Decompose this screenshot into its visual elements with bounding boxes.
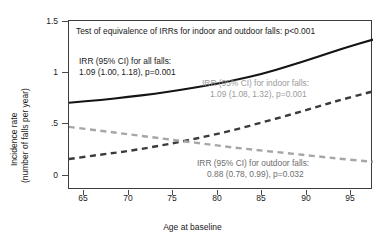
annotation-equivalence-test: Test of equivalence of IRRs for indoor a… xyxy=(76,26,315,37)
y-tick-label-1: 1 xyxy=(32,67,58,77)
x-tick-label-85: 85 xyxy=(246,193,276,203)
annotation-all-falls-line1: IRR (95% CI) for all falls: xyxy=(79,56,171,66)
series-outdoor-falls xyxy=(69,127,373,162)
annotation-indoor-falls-line2: 1.09 (1.08, 1.32), p=0.001 xyxy=(202,89,309,100)
y-axis-label-line1: Incidence rate xyxy=(9,113,20,166)
y-tick-label-1.5: 1.5 xyxy=(32,16,58,26)
annotation-outdoor-falls-line1: IRR (95% CI) for outdoor falls: xyxy=(197,158,309,168)
annotation-outdoor-falls-line2: 0.88 (0.78, 0.99), p=0.032 xyxy=(197,169,309,180)
y-axis-ticks: 1.5 1 .5 0 xyxy=(32,0,58,244)
x-tick-label-90: 90 xyxy=(291,193,321,203)
y-tick-label-0.5: .5 xyxy=(32,118,58,128)
y-tick-label-0: 0 xyxy=(32,170,58,180)
annotation-all-falls: IRR (95% CI) for all falls: 1.09 (1.00, … xyxy=(79,56,176,78)
series-indoor-falls xyxy=(69,91,373,159)
annotation-all-falls-line2: 1.09 (1.00, 1.18), p=0.001 xyxy=(79,67,176,78)
annotation-outdoor-falls: IRR (95% CI) for outdoor falls: 0.88 (0.… xyxy=(197,158,309,180)
x-tick-label-65: 65 xyxy=(68,193,98,203)
annotation-indoor-falls-line1: IRR (95% CI) for indoor falls: xyxy=(202,78,309,88)
incidence-rate-chart: Incidence rate (number of falls per year… xyxy=(0,0,385,244)
annotation-equivalence-test-line1: Test of equivalence of IRRs for indoor a… xyxy=(76,26,315,36)
annotation-indoor-falls: IRR (95% CI) for indoor falls: 1.09 (1.0… xyxy=(202,78,309,100)
x-tick-label-95: 95 xyxy=(335,193,365,203)
x-tick-label-80: 80 xyxy=(202,193,232,203)
x-tick-label-70: 70 xyxy=(113,193,143,203)
x-axis-label: Age at baseline xyxy=(0,222,385,232)
y-axis-label-line2: (number of falls per year) xyxy=(20,88,31,183)
x-tick-label-75: 75 xyxy=(157,193,187,203)
